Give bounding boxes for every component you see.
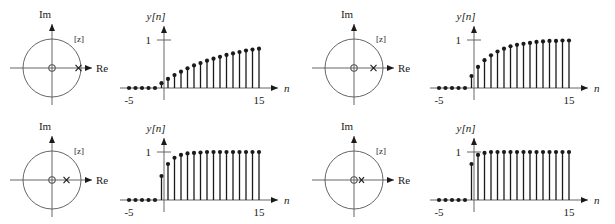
zplane-svg-2: Im Re [z] <box>300 0 420 112</box>
real-axis-label: Re <box>96 62 108 74</box>
step-response-panel-2: 1 y[n] n -5 15 <box>420 0 615 112</box>
z-region-label: [z] <box>376 146 386 156</box>
panel-row-bottom: Im Re [z] 1 y[n] n -5 15 <box>0 112 615 224</box>
z-region-label: [z] <box>74 34 84 44</box>
x-tick-min-label-3: -5 <box>124 206 134 218</box>
x-tick-max-label-3: 15 <box>254 206 266 218</box>
zplane-panel-3: Im Re [z] <box>0 112 110 224</box>
x-axis-label-4: n <box>594 194 600 206</box>
z-region-label: [z] <box>74 146 84 156</box>
x-tick-min-label-1: -5 <box>124 94 134 106</box>
z-region-label: [z] <box>376 34 386 44</box>
x-axis-label-1: n <box>284 82 290 94</box>
x-axis-label-3: n <box>284 194 290 206</box>
zplane-svg-4: Im Re [z] <box>300 112 420 224</box>
imaginary-axis-label: Im <box>39 8 52 20</box>
real-axis-label: Re <box>398 174 410 186</box>
step-response-panel-3: 1 y[n] n -5 15 <box>110 112 300 224</box>
y-tick-label-1: 1 <box>146 34 152 46</box>
real-axis-label: Re <box>398 62 410 74</box>
zplane-svg-3: Im Re [z] <box>0 112 110 224</box>
y-axis-label-3: y[n] <box>146 122 166 134</box>
y-tick-label-3: 1 <box>146 146 152 158</box>
stem-svg-3: 1 y[n] n -5 15 <box>110 112 300 224</box>
stem-svg-4: 1 y[n] n -5 15 <box>420 112 615 224</box>
x-tick-max-label-2: 15 <box>564 94 576 106</box>
x-tick-min-label-2: -5 <box>434 94 444 106</box>
zplane-svg-1: Im Re [z] <box>0 0 110 112</box>
step-response-panel-1: 1 y[n] n -5 15 <box>110 0 300 112</box>
stem-svg-1: 1 y[n] n -5 15 <box>110 0 300 112</box>
imaginary-axis-label: Im <box>341 120 354 132</box>
x-tick-max-label-4: 15 <box>564 206 576 218</box>
zplane-panel-2: Im Re [z] <box>300 0 420 112</box>
stem-series-2 <box>437 38 571 90</box>
imaginary-axis-label: Im <box>39 120 52 132</box>
y-axis-label-4: y[n] <box>456 122 476 134</box>
y-axis-label-2: y[n] <box>456 10 476 22</box>
pole-zero-step-response-figure: Im Re [z] 1 y[n] n -5 15 <box>0 0 615 224</box>
stem-series-1 <box>127 47 261 91</box>
y-tick-label-4: 1 <box>456 146 462 158</box>
y-axis-label-1: y[n] <box>146 10 166 22</box>
step-response-panel-4: 1 y[n] n -5 15 <box>420 112 615 224</box>
zplane-panel-4: Im Re [z] <box>300 112 420 224</box>
x-tick-max-label-1: 15 <box>254 94 266 106</box>
x-tick-min-label-4: -5 <box>434 206 444 218</box>
zplane-panel-1: Im Re [z] <box>0 0 110 112</box>
stem-svg-2: 1 y[n] n -5 15 <box>420 0 615 112</box>
x-axis-label-2: n <box>594 82 600 94</box>
panel-row-top: Im Re [z] 1 y[n] n -5 15 <box>0 0 615 112</box>
real-axis-label: Re <box>96 174 108 186</box>
y-tick-label-2: 1 <box>456 34 462 46</box>
imaginary-axis-label: Im <box>341 8 354 20</box>
